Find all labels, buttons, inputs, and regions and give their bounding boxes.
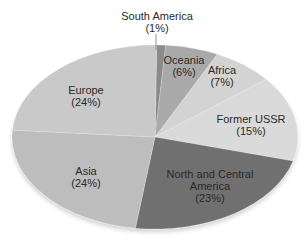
label-south-america-pct: (1%) [121, 22, 193, 34]
pie-slices [12, 45, 298, 229]
label-north-central-america-pct: (23%) [167, 192, 254, 204]
label-africa-pct: (7%) [208, 76, 236, 88]
label-former-ussr: Former USSR (15%) [216, 113, 285, 137]
label-south-america: South America (1%) [121, 10, 193, 34]
label-oceania-pct: (6%) [164, 66, 205, 78]
label-africa: Africa (7%) [208, 64, 236, 88]
label-south-america-name: South America [121, 10, 193, 22]
label-oceania-name: Oceania [164, 54, 205, 66]
label-asia-name: Asia [71, 165, 100, 177]
label-oceania: Oceania (6%) [164, 54, 205, 78]
label-europe: Europe (24%) [68, 84, 103, 108]
label-north-central-america: North and Central America (23%) [167, 168, 254, 204]
label-asia-pct: (24%) [71, 177, 100, 189]
label-former-ussr-name: Former USSR [216, 113, 285, 125]
label-north-central-america-name2: America [167, 180, 254, 192]
label-asia: Asia (24%) [71, 165, 100, 189]
label-europe-name: Europe [68, 84, 103, 96]
label-former-ussr-pct: (15%) [216, 125, 285, 137]
label-africa-name: Africa [208, 64, 236, 76]
label-north-central-america-name1: North and Central [167, 168, 254, 180]
label-europe-pct: (24%) [68, 96, 103, 108]
